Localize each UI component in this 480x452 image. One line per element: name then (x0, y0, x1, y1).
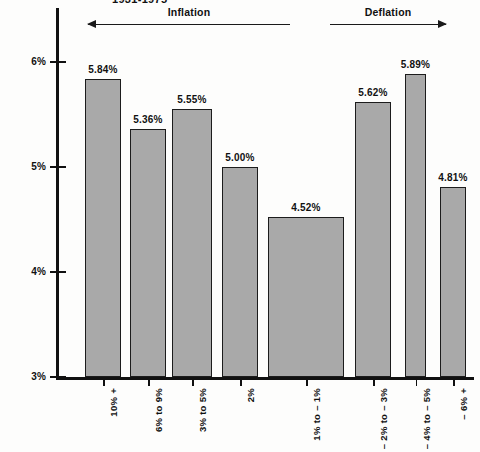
x-category-label: – 2% to – 3% (378, 388, 389, 449)
bar-chart: 1931-1975 Inflation Deflation 3%4%5%6% 5… (0, 0, 480, 452)
x-tick-mark (103, 379, 105, 386)
x-category-label: 1% to – 1% (311, 388, 322, 441)
y-tick-mark (50, 376, 66, 378)
bar[interactable] (85, 79, 121, 377)
bar-value-label: 5.89% (394, 59, 438, 70)
arrow-right-icon (438, 20, 447, 28)
bar-value-label: 5.36% (126, 114, 170, 125)
annotation-inflation-line (88, 24, 290, 25)
x-category-label: – 6% + (458, 388, 469, 420)
x-axis-line (56, 377, 474, 380)
y-tick-label: 5% (0, 161, 46, 172)
y-tick-mark (50, 271, 66, 273)
x-tick-mark (373, 379, 375, 386)
x-category-label: 10% + (108, 388, 119, 417)
x-tick-mark (416, 379, 418, 386)
bar-value-label: 5.55% (170, 94, 214, 105)
bar[interactable] (172, 109, 212, 377)
y-tick-mark (50, 61, 66, 63)
x-category-label: – 4% to – 5% (421, 388, 432, 449)
bar[interactable] (222, 167, 258, 377)
bar[interactable] (355, 102, 391, 377)
bar-value-label: 5.00% (218, 152, 262, 163)
x-tick-mark (192, 379, 194, 386)
y-tick-mark (50, 166, 66, 168)
annotation-deflation: Deflation (330, 6, 446, 32)
y-tick-label: 3% (0, 371, 46, 382)
x-tick-mark (453, 379, 455, 386)
annotation-inflation: Inflation (88, 6, 290, 32)
y-tick-label: 4% (0, 266, 46, 277)
arrow-left-icon (87, 20, 96, 28)
y-axis-line (56, 8, 59, 379)
annotation-deflation-label: Deflation (330, 6, 446, 18)
bar[interactable] (130, 129, 166, 377)
bar-value-label: 4.52% (284, 202, 328, 213)
x-tick-mark (240, 379, 242, 386)
x-category-label: 2% (245, 388, 256, 402)
x-tick-mark (306, 379, 308, 386)
bar-value-label: 5.62% (351, 87, 395, 98)
bar-value-label: 4.81% (431, 172, 475, 183)
x-tick-mark (148, 379, 150, 386)
x-category-label: 6% to 9% (153, 388, 164, 432)
chart-title: 1931-1975 (112, 0, 167, 5)
bar-value-label: 5.84% (81, 64, 125, 75)
y-tick-label: 6% (0, 56, 46, 67)
annotation-inflation-label: Inflation (88, 6, 290, 18)
bar[interactable] (440, 187, 466, 377)
bar[interactable] (268, 217, 344, 377)
annotation-deflation-line (330, 24, 446, 25)
x-category-label: 3% to 5% (197, 388, 208, 432)
bar[interactable] (405, 74, 426, 377)
